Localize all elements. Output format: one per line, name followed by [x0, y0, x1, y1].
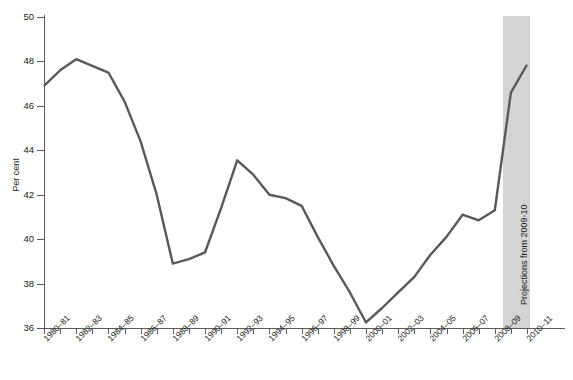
y-tick-label-46: 46	[10, 101, 34, 111]
y-tick-label-40: 40	[10, 234, 34, 244]
y-tick-label-50: 50	[10, 12, 34, 22]
y-tick-48	[37, 61, 45, 62]
y-axis-title-text: Per cent	[11, 158, 21, 192]
y-tick-38	[37, 284, 45, 285]
y-tick-46	[37, 106, 45, 107]
y-tick-42	[37, 195, 45, 196]
y-tick-44	[37, 150, 45, 151]
series-line-per-cent	[44, 59, 527, 322]
y-tick-label-44: 44	[10, 145, 34, 155]
y-tick-50	[37, 17, 45, 18]
y-tick-label-36: 36	[10, 323, 34, 333]
y-tick-label-38: 38	[10, 279, 34, 289]
projection-annotation-label: Projections from 2009-10	[520, 204, 529, 305]
y-tick-label-48: 48	[10, 56, 34, 66]
y-tick-label-42: 42	[10, 190, 34, 200]
y-tick-40	[37, 239, 45, 240]
chart-container: Per cent Projections from 2009-10 363840…	[0, 0, 573, 380]
y-axis-title: Per cent	[8, 130, 24, 220]
